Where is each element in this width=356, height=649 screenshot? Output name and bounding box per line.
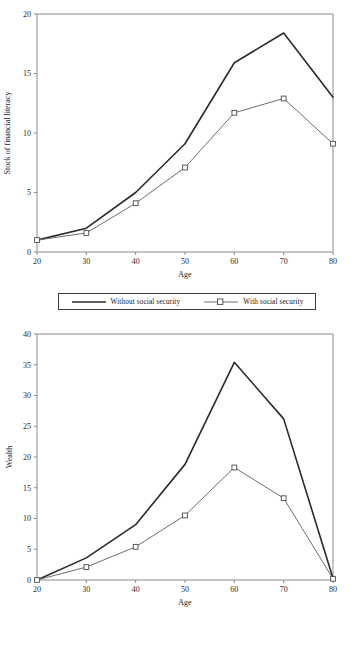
x-axis-title: Age	[178, 598, 192, 607]
y-axis-tick-label: 25	[23, 422, 31, 431]
y-axis-tick-label: 5	[27, 545, 31, 554]
y-axis-title: Wealth	[5, 446, 14, 468]
legend-label-with-social-security: With social security	[243, 298, 303, 306]
y-axis-tick-label: 0	[27, 248, 31, 257]
series-marker-with-social-security	[281, 96, 286, 101]
series-marker-with-social-security	[331, 576, 336, 581]
legend-line-square-marker-icon	[203, 297, 239, 307]
series-line-without-social-security	[37, 33, 333, 240]
legend-entry-with-social-security: With social security	[203, 297, 303, 307]
chart-wealth: 051015202530354020304050607080AgeWealth	[0, 318, 356, 618]
x-axis-tick-label: 60	[230, 585, 238, 594]
series-marker-with-social-security	[84, 565, 89, 570]
y-axis-tick-label: 30	[23, 391, 31, 400]
series-marker-with-social-security	[183, 165, 188, 170]
x-axis-tick-label: 70	[280, 257, 288, 266]
series-marker-with-social-security	[35, 578, 40, 583]
series-marker-with-social-security	[281, 496, 286, 501]
x-axis-tick-label: 60	[230, 257, 238, 266]
legend-entry-without-social-security: Without social security	[71, 297, 181, 307]
figure-wealth: 051015202530354020304050607080AgeWealth …	[0, 318, 356, 649]
series-marker-with-social-security	[84, 231, 89, 236]
legend-line-solid-icon	[71, 297, 107, 307]
series-marker-with-social-security	[133, 544, 138, 549]
x-axis-tick-label: 80	[329, 257, 337, 266]
chart-financial-literacy: 0510152020304050607080AgeStock of financ…	[0, 0, 356, 290]
x-axis-tick-label: 30	[82, 585, 90, 594]
figure-financial-literacy: 0510152020304050607080AgeStock of financ…	[0, 0, 356, 318]
series-marker-with-social-security	[232, 110, 237, 115]
legend-label-without-social-security: Without social security	[111, 298, 181, 306]
series-marker-with-social-security	[35, 238, 40, 243]
y-axis-tick-label: 20	[23, 453, 31, 462]
x-axis-tick-label: 50	[181, 257, 189, 266]
series-marker-with-social-security	[331, 141, 336, 146]
series-marker-with-social-security	[133, 201, 138, 206]
y-axis-tick-label: 40	[23, 330, 31, 339]
x-axis-tick-label: 40	[132, 257, 140, 266]
series-line-with-social-security	[37, 467, 333, 580]
x-axis-tick-label: 70	[280, 585, 288, 594]
x-axis-tick-label: 30	[82, 257, 90, 266]
x-axis-tick-label: 80	[329, 585, 337, 594]
y-axis-tick-label: 15	[23, 69, 31, 78]
y-axis-title: Stock of financial literacy	[3, 92, 12, 175]
y-axis-tick-label: 35	[23, 361, 31, 370]
x-axis-tick-label: 20	[33, 257, 41, 266]
y-axis-tick-label: 20	[23, 10, 31, 19]
x-axis-tick-label: 40	[132, 585, 140, 594]
x-axis-tick-label: 20	[33, 585, 41, 594]
series-marker-with-social-security	[232, 465, 237, 470]
x-axis-tick-label: 50	[181, 585, 189, 594]
y-axis-tick-label: 0	[27, 576, 31, 585]
series-marker-with-social-security	[183, 513, 188, 518]
y-axis-tick-label: 15	[23, 484, 31, 493]
series-line-without-social-security	[37, 362, 333, 580]
y-axis-tick-label: 10	[23, 129, 31, 138]
y-axis-tick-label: 10	[23, 514, 31, 523]
x-axis-title: Age	[178, 270, 192, 279]
y-axis-tick-label: 5	[27, 188, 31, 197]
legend-financial-literacy: Without social security With social secu…	[58, 293, 316, 310]
